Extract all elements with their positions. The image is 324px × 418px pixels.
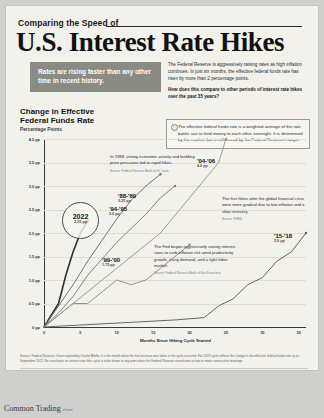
chart-subtitle: Percentage Points: [20, 127, 62, 132]
annotation-99-00-value: 1.75 pp: [102, 263, 120, 267]
series-endpoint-1988-1989: [159, 173, 161, 175]
subtitle-banner: Rates are rising faster than any other t…: [30, 62, 161, 92]
caption-main: Common Trading: [4, 404, 61, 413]
intro-paragraph-2: How does this compare to other periods o…: [168, 86, 308, 100]
subtitle-text: Rates are rising faster than any other t…: [30, 62, 161, 86]
note-gfc-text: The first hikes after the global financi…: [222, 196, 308, 215]
note-1988-text: In 1988, strong economic activity and bu…: [110, 154, 196, 167]
note-1988: In 1988, strong economic activity and bu…: [110, 154, 196, 173]
annotation-88-89: '88-'89 3.25 pp: [118, 193, 136, 203]
footer-divider-top: [20, 368, 308, 369]
note-gfc: The first hikes after the global financi…: [222, 196, 308, 221]
x-axis-title: Months Since Hiking Cycle Started: [140, 338, 300, 343]
annotation-88-89-value: 3.25 pp: [118, 199, 136, 203]
intro-block: The Federal Reserve is aggressively rais…: [168, 61, 308, 105]
series-line-1988-1989: [44, 174, 160, 327]
chart-title-line1: Change in Effective: [20, 107, 94, 116]
footnote: Source: Federal Reserve, Chart inspired …: [20, 354, 308, 363]
series-endpoint-2004-2006: [225, 138, 227, 140]
annotation-04-06: '04-'06 4.0 pp: [197, 158, 215, 168]
annotation-15-18: '15-'18 2.0 pp: [274, 233, 292, 243]
annotation-2022-label: 2022: [63, 213, 98, 220]
annotation-2022-value: 2.25 pp: [63, 220, 98, 224]
info-icon: i: [171, 124, 178, 131]
annotation-04-06-value: 4.0 pp: [197, 164, 215, 168]
annotation-99-00: '99-'00 1.75 pp: [102, 257, 120, 267]
annotation-94-95: '94-'95 3.0 pp: [109, 206, 127, 216]
annotation-2022: 2022 2.25 pp: [62, 202, 99, 239]
chart-title-line2: Federal Funds Rate: [20, 116, 94, 125]
series-endpoint-2015-2018: [305, 232, 307, 234]
caption-sub: chart: [63, 407, 73, 412]
note-gfc-source: Source: FRED: [222, 217, 308, 221]
page-title: U.S. Interest Rate Hikes: [16, 27, 284, 58]
note-fed-hikes-text: The Fed began aggressively raising inter…: [154, 244, 240, 269]
annotation-15-18-value: 2.0 pp: [274, 239, 292, 243]
page-caption: Common Trading chart: [4, 404, 73, 413]
infographic-page: Comparing the Speed of U.S. Interest Rat…: [6, 6, 318, 370]
note-fed-hikes-source: Source: Federal Reserve Bank of San Fran…: [154, 271, 240, 275]
annotation-94-95-value: 3.0 pp: [109, 212, 127, 216]
note-1988-source: Source: Federal Reserve Bank of St. Loui…: [110, 169, 196, 173]
note-fed-hikes: The Fed began aggressively raising inter…: [154, 244, 240, 275]
series-endpoint-1994-1995: [174, 185, 176, 187]
intro-paragraph-1: The Federal Reserve is aggressively rais…: [168, 61, 308, 82]
